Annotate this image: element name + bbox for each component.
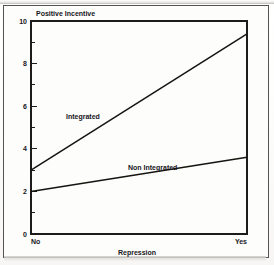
y-tick-label-10: 10 [19, 18, 27, 25]
series-label-non-integrated: Non Integrated [128, 164, 177, 172]
y-tick-label-2: 2 [23, 188, 27, 195]
y-tick-label-4: 4 [23, 145, 27, 152]
y-tick-label-6: 6 [23, 103, 27, 110]
x-axis-title: Repression [118, 249, 156, 257]
y-axis-title: Positive Incentive [36, 10, 95, 17]
line-chart: 10 8 6 4 2 0 Positive Incentive No Yes R… [0, 0, 274, 265]
x-tick-label-yes: Yes [235, 238, 247, 245]
series-line-non-integrated [31, 157, 247, 191]
series-line-integrated [31, 34, 247, 170]
plot-area-border [31, 21, 247, 234]
series-label-integrated: Integrated [66, 113, 100, 121]
y-tick-label-0: 0 [23, 231, 27, 238]
scanned-page: 10 8 6 4 2 0 Positive Incentive No Yes R… [0, 0, 274, 265]
y-tick-label-8: 8 [23, 60, 27, 67]
x-tick-label-no: No [31, 238, 40, 245]
